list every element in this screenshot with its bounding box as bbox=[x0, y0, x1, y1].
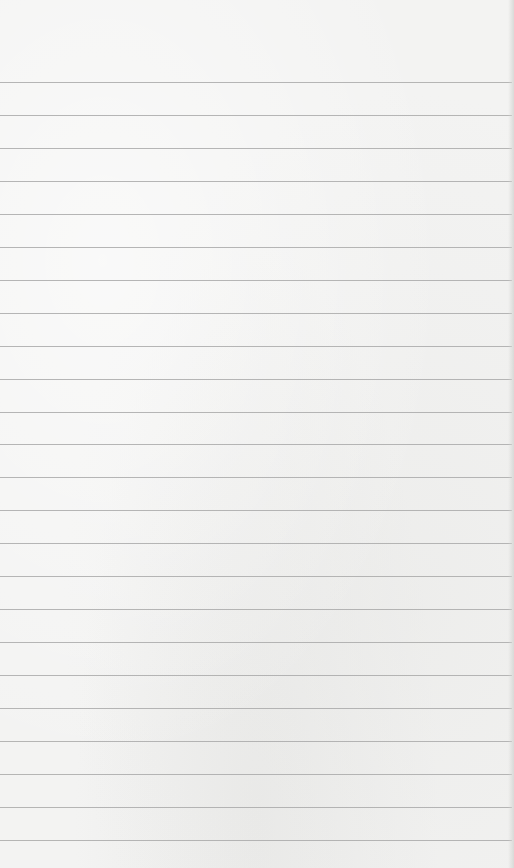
ruled-line bbox=[0, 412, 512, 413]
ruled-line bbox=[0, 115, 512, 116]
ruled-line bbox=[0, 675, 512, 676]
ruled-line bbox=[0, 214, 512, 215]
ruled-line bbox=[0, 346, 512, 347]
ruled-line bbox=[0, 477, 512, 478]
ruled-line bbox=[0, 82, 512, 83]
ruled-line bbox=[0, 708, 512, 709]
ruled-line bbox=[0, 807, 512, 808]
lined-paper-sheet bbox=[0, 0, 514, 868]
ruled-line bbox=[0, 313, 512, 314]
ruled-line bbox=[0, 280, 512, 281]
ruled-line bbox=[0, 840, 512, 841]
ruled-line bbox=[0, 741, 512, 742]
ruled-line bbox=[0, 576, 512, 577]
ruled-line bbox=[0, 642, 512, 643]
ruled-line bbox=[0, 774, 512, 775]
ruled-line bbox=[0, 379, 512, 380]
ruled-line bbox=[0, 444, 512, 445]
ruled-line bbox=[0, 247, 512, 248]
ruled-line bbox=[0, 510, 512, 511]
ruled-line bbox=[0, 609, 512, 610]
ruled-line bbox=[0, 148, 512, 149]
ruled-line bbox=[0, 543, 512, 544]
ruled-line bbox=[0, 181, 512, 182]
